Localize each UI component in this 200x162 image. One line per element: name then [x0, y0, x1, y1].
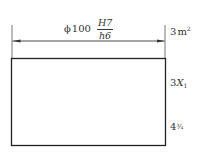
- area-label: 3 m2: [170, 26, 191, 37]
- term-subscript: 1: [184, 82, 188, 89]
- mixed-number-label: 4¾: [170, 122, 183, 132]
- mixed-fraction: ¾: [176, 123, 183, 131]
- diameter-dimension-label: ϕ 100 H7 h6: [64, 18, 113, 40]
- area-value: 3: [170, 26, 176, 37]
- term-variable: X: [176, 77, 183, 88]
- area-exponent: 2: [187, 25, 191, 32]
- hole-tolerance: H7: [97, 18, 113, 30]
- nominal-size: 100: [72, 24, 91, 34]
- area-unit: m: [177, 26, 186, 37]
- diameter-symbol: ϕ: [64, 24, 71, 34]
- part-outline-rectangle: [12, 59, 166, 146]
- variable-term-label: 3X1: [170, 78, 187, 89]
- shaft-tolerance: h6: [99, 30, 111, 41]
- tolerance-fit-fraction: H7 h6: [97, 18, 113, 40]
